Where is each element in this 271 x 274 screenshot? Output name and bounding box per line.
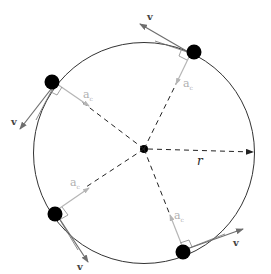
ball-top-right xyxy=(187,45,202,60)
object-upper-left: v ac xyxy=(10,75,94,130)
circular-motion-diagram: r v ac v ac v ac v xyxy=(0,0,271,274)
acceleration-label-top-right: ac xyxy=(183,77,194,91)
ball-lower-left xyxy=(48,207,63,222)
velocity-label-lower-left: v xyxy=(76,261,84,272)
acceleration-label-upper-left: ac xyxy=(83,88,94,102)
velocity-arrow-top-right xyxy=(140,24,190,53)
dashed-line-upper-left xyxy=(82,102,144,149)
acceleration-label-bottom-right: ac xyxy=(174,209,185,223)
object-top-right: v ac xyxy=(140,11,202,91)
ball-bottom-right xyxy=(176,245,191,260)
object-lower-left: v ac xyxy=(48,176,90,272)
acceleration-label-lower-left: ac xyxy=(70,176,81,190)
acceleration-arrow-lower-left xyxy=(57,188,89,210)
velocity-label-upper-left: v xyxy=(10,116,18,127)
radius-line xyxy=(148,149,253,152)
dashed-line-top-right xyxy=(144,80,178,149)
velocity-label-bottom-right: v xyxy=(232,237,240,248)
radius-label: r xyxy=(197,154,204,168)
dashed-line-lower-left xyxy=(86,149,144,187)
velocity-label-top-right: v xyxy=(146,11,154,22)
object-bottom-right: v ac xyxy=(170,209,243,260)
ball-upper-left xyxy=(45,75,60,90)
dashed-line-bottom-right xyxy=(144,149,170,215)
tangent-line-lower-left xyxy=(57,215,78,250)
